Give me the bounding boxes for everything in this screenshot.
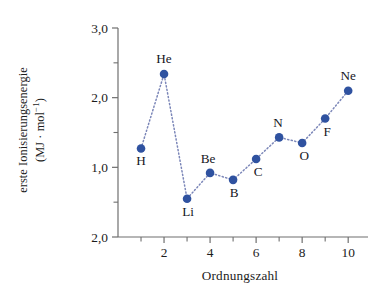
point-label-be: Be (201, 151, 216, 166)
axis-layer: 3,02,01,02,0246810 (91, 21, 368, 260)
point-label-o: O (299, 148, 309, 163)
point-label-he: He (156, 51, 172, 66)
data-point-ne (344, 86, 353, 95)
point-label-li: Li (182, 204, 194, 219)
data-series-layer (137, 70, 353, 203)
plot-area: 3,02,01,02,0246810 HHeLiBeBCNOFNe (0, 0, 380, 302)
ionization-energy-chart: erste Ionisierungsenergie (MJ · mol−1) O… (0, 0, 380, 302)
x-axis-tick-label: 10 (341, 245, 355, 260)
point-label-h: H (136, 153, 146, 168)
point-label-b: B (230, 185, 239, 200)
point-label-f: F (323, 124, 330, 139)
y-axis-tick-label: 2,0 (91, 90, 108, 105)
x-axis-tick-label: 8 (299, 245, 306, 260)
x-axis-tick-label: 4 (207, 245, 214, 260)
y-axis-tick-label: 3,0 (91, 21, 108, 36)
x-axis-tick-label: 6 (253, 245, 260, 260)
x-axis-tick-label: 2 (161, 245, 168, 260)
point-label-layer: HHeLiBeBCNOFNe (136, 51, 356, 219)
series-connector-line (141, 74, 348, 199)
data-point-n (275, 133, 284, 142)
data-point-c (252, 155, 261, 164)
point-label-ne: Ne (340, 68, 356, 83)
data-point-b (229, 176, 238, 185)
point-label-c: C (254, 164, 263, 179)
y-axis-tick-label: 1,0 (91, 160, 108, 175)
data-point-li (183, 194, 192, 203)
data-point-f (321, 114, 330, 123)
data-point-o (298, 139, 307, 148)
data-point-he (160, 70, 169, 79)
point-label-n: N (273, 115, 283, 130)
y-axis-tick-label: 2,0 (91, 230, 108, 245)
data-point-h (137, 144, 146, 153)
data-point-be (206, 169, 215, 178)
